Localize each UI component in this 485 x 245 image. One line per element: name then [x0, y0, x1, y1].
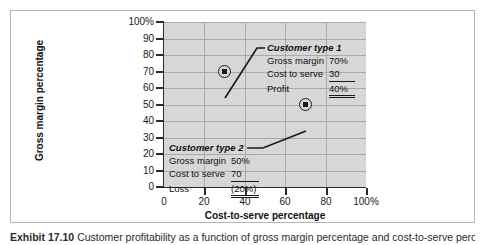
figure-caption-text: Customer profitability as a function of …	[77, 231, 475, 243]
x-axis-tick-label: 100%	[353, 197, 379, 207]
gridline-horizontal	[164, 22, 366, 23]
annotation-row-value: 70	[231, 167, 259, 181]
annotation-row-value: 30	[329, 67, 355, 81]
y-axis-tick-label: 80	[143, 50, 154, 60]
annotation-row-value: (20%)	[231, 182, 259, 198]
x-axis-tick-label: 0	[161, 197, 167, 207]
gridline-horizontal	[164, 138, 366, 139]
y-axis-tick-label: 10	[143, 166, 154, 176]
y-axis-tick-label: 60	[143, 83, 154, 93]
x-axis-tick-label: 80	[320, 197, 331, 207]
annotation-row: Profit 40%	[267, 82, 355, 98]
annotation-row: Loss (20%)	[169, 182, 259, 198]
y-axis-tick-label: 0	[148, 182, 154, 192]
annotation-row-label: Cost to serve	[267, 67, 329, 80]
y-axis-tick-label: 90	[143, 34, 154, 44]
x-axis-tick-label: 20	[198, 197, 209, 207]
annotation-row-label: Gross margin	[169, 154, 231, 167]
gridline-horizontal	[164, 105, 366, 106]
gridline-horizontal	[164, 39, 366, 40]
annotation-row: Cost to serve 30	[267, 67, 355, 81]
y-axis-tick-label: 50	[143, 100, 154, 110]
annotation-row-value: 50%	[231, 154, 259, 167]
y-axis-tick-label: 20	[143, 149, 154, 159]
y-axis-title: Gross margin percentage	[34, 21, 45, 181]
x-axis-title: Cost-to-serve percentage	[164, 210, 366, 221]
data-point-marker	[218, 65, 231, 78]
x-axis-tick-mark	[285, 188, 287, 195]
annotation-title: Customer type 2	[169, 141, 259, 154]
annotation-row: Cost to serve 70	[169, 167, 259, 181]
annotation-customer-type-2: Customer type 2 Gross margin 50% Cost to…	[169, 141, 259, 198]
annotation-row-value: 40%	[329, 82, 355, 98]
y-axis-tick-label: 30	[143, 133, 154, 143]
figure-frame: 0102030405060708090100% 020406080100% Co…	[10, 10, 475, 223]
y-axis-tick-label: 100%	[128, 17, 154, 27]
annotation-customer-type-1: Customer type 1 Gross margin 70% Cost to…	[267, 41, 355, 98]
annotation-row-value: 70%	[329, 54, 355, 67]
x-axis-tick-label: 40	[239, 197, 250, 207]
x-axis-tick-label: 60	[279, 197, 290, 207]
x-axis-tick-mark	[366, 188, 368, 195]
data-point-marker	[299, 98, 312, 111]
annotation-row-label: Loss	[169, 182, 231, 195]
annotation-title: Customer type 1	[267, 41, 355, 54]
annotation-row-label: Profit	[267, 82, 329, 95]
annotation-row-label: Cost to serve	[169, 167, 231, 180]
annotation-row: Gross margin 50%	[169, 154, 259, 167]
y-axis-tick-label: 40	[143, 116, 154, 126]
y-axis-tick-label: 70	[143, 67, 154, 77]
figure-caption: Exhibit 17.10 Customer profitability as …	[10, 231, 475, 243]
annotation-row: Gross margin 70%	[267, 54, 355, 67]
gridline-horizontal	[164, 121, 366, 122]
y-axis-line	[163, 22, 164, 188]
chart-plot-area: 0102030405060708090100% 020406080100% Co…	[11, 11, 476, 224]
annotation-row-label: Gross margin	[267, 54, 329, 67]
figure-caption-label: Exhibit 17.10	[10, 231, 74, 243]
x-axis-tick-mark	[326, 188, 328, 195]
